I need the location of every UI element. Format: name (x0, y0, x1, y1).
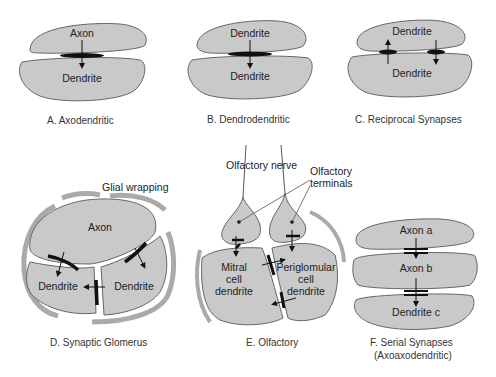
synapse-types-diagram: Axon Dendrite A. Axodendritic Dendrite D… (0, 0, 496, 377)
caption-line-2: (Axoaxodendritic) (374, 350, 452, 361)
periglomular-label-1: Periglomular (277, 261, 336, 273)
top-dendrite-label: Dendrite (230, 27, 270, 39)
bottom-dendrite-label: Dendrite (230, 70, 270, 82)
caption: C. Reciprocal Synapses (355, 114, 462, 125)
periglomular-label-3: dendrite (287, 285, 325, 297)
dendrite-c-label: Dendrite c (392, 306, 440, 318)
caption: E. Olfactory (246, 337, 298, 348)
panel-b-dendrodendritic: Dendrite Dendrite B. Dendrodendritic (188, 21, 312, 125)
axon-label: Axon (88, 221, 112, 233)
panel-e-olfactory: Olfactory nerve Olfactory terminals Mitr… (197, 145, 353, 348)
panel-a-axodendritic: Axon Dendrite A. Axodendritic (19, 23, 146, 126)
left-dendrite-label: Dendrite (38, 280, 78, 292)
mitral-label-2: cell (226, 273, 242, 285)
right-dendrite-label: Dendrite (114, 280, 154, 292)
caption: B. Dendrodendritic (207, 114, 290, 125)
periglomular-label-2: cell (298, 273, 314, 285)
panel-d-synaptic-glomerus: Axon Dendrite Dendrite Glial wrapping D.… (24, 181, 174, 348)
panel-c-reciprocal-synapses: Dendrite Dendrite C. Reciprocal Synapses (348, 20, 472, 125)
axon-b-label: Axon b (400, 262, 433, 274)
mitral-label-3: dendrite (215, 285, 253, 297)
dendrite-label: Dendrite (62, 72, 102, 84)
olfactory-terminals-label-1: Olfactory (310, 165, 353, 177)
axon-label: Axon (70, 27, 94, 39)
caption: A. Axodendritic (47, 115, 114, 126)
caption: D. Synaptic Glomerus (50, 337, 147, 348)
axon-a-label: Axon a (400, 224, 433, 236)
panel-f-serial-synapses: Axon a Axon b Dendrite c F. Serial Synap… (353, 219, 477, 361)
glial-wrapping-label: Glial wrapping (102, 181, 169, 193)
bottom-dendrite-label: Dendrite (392, 67, 432, 79)
caption-line-1: F. Serial Synapses (370, 337, 453, 348)
top-dendrite-label: Dendrite (392, 25, 432, 37)
olfactory-terminals-label-2: terminals (310, 177, 353, 189)
olfactory-nerve-label: Olfactory nerve (226, 159, 297, 171)
mitral-label-1: Mitral (221, 261, 247, 273)
